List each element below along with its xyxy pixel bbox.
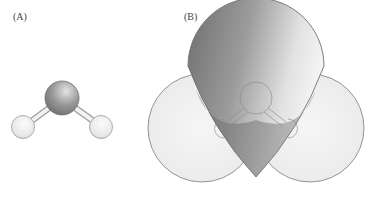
oxygen-atom — [45, 81, 79, 115]
hydrogen-atom-right — [90, 116, 113, 139]
water-molecule-figure — [0, 0, 374, 208]
space-filling-model — [148, 0, 364, 182]
ball-and-stick-model — [12, 81, 113, 139]
hydrogen-atom-left — [12, 116, 35, 139]
